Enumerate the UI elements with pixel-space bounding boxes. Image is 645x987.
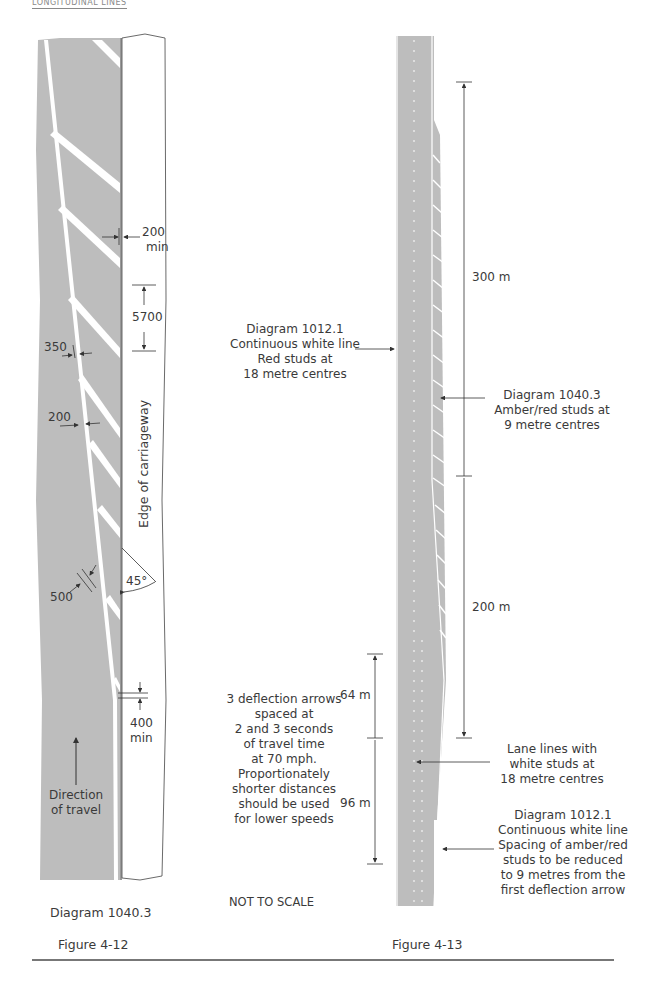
annot-line: Diagram 1012.1: [230, 322, 360, 337]
dim-200: 200: [48, 410, 71, 425]
dim-45-degree: 45°: [126, 574, 147, 589]
annot-line: should be used: [224, 797, 344, 812]
dim-5700: 5700: [132, 310, 163, 325]
annot-line: shorter distances: [224, 782, 344, 797]
dim-unit: min: [130, 731, 153, 746]
dim-200m: 200 m: [472, 600, 510, 615]
dim-unit: min: [142, 240, 169, 255]
dim-value: 200: [142, 225, 169, 240]
annot-line: spaced at: [224, 707, 344, 722]
annot-line: 2 and 3 seconds: [224, 722, 344, 737]
label-line: Direction: [48, 788, 104, 803]
footer-rule: [32, 959, 614, 961]
annot-line: Diagram 1012.1: [498, 808, 628, 823]
dim-400-min: 400 min: [130, 716, 153, 746]
annot-line: Spacing of amber/red: [498, 838, 628, 853]
annot-line: 18 metre centres: [230, 367, 360, 382]
figure-4-13-caption: Figure 4-13: [392, 937, 463, 952]
annot-line: Continuous white line: [498, 823, 628, 838]
annot-line: Lane lines with: [492, 742, 612, 757]
edge-of-carriageway-label: Edge of carriageway: [136, 400, 151, 528]
annotation-deflection-arrows: 3 deflection arrows spaced at 2 and 3 se…: [224, 692, 344, 827]
direction-of-travel-label: Direction of travel: [48, 788, 104, 818]
dim-500: 500: [50, 590, 73, 605]
dim-64m: 64 m: [340, 688, 371, 703]
annot-line: Red studs at: [230, 352, 360, 367]
annotation-right-edge-line: Diagram 1012.1 Continuous white line Spa…: [498, 808, 628, 898]
annot-line: of travel time: [224, 737, 344, 752]
dim-350: 350: [44, 340, 67, 355]
annot-line: studs to be reduced: [498, 853, 628, 868]
annot-line: white studs at: [492, 757, 612, 772]
annotation-hatched-area: Diagram 1040.3 Amber/red studs at 9 metr…: [482, 388, 622, 433]
annot-line: Amber/red studs at: [482, 403, 622, 418]
annot-line: at 70 mph.: [224, 752, 344, 767]
diagram-1040-3-label: Diagram 1040.3: [50, 905, 151, 920]
annot-line: 9 metre centres: [482, 418, 622, 433]
label-line: of travel: [48, 803, 104, 818]
annot-line: 3 deflection arrows: [224, 692, 344, 707]
annot-line: to 9 metres from the: [498, 868, 628, 883]
annotation-left-edge-line: Diagram 1012.1 Continuous white line Red…: [230, 322, 360, 382]
figure-4-12-caption: Figure 4-12: [58, 937, 129, 952]
dim-value: 400: [130, 716, 153, 731]
annot-line: first deflection arrow: [498, 883, 628, 898]
annotation-lane-lines: Lane lines with white studs at 18 metre …: [492, 742, 612, 787]
dim-300m: 300 m: [472, 270, 510, 285]
dim-96m: 96 m: [340, 796, 371, 811]
annot-line: Diagram 1040.3: [482, 388, 622, 403]
annot-line: for lower speeds: [224, 812, 344, 827]
not-to-scale-note: NOT TO SCALE: [229, 895, 314, 909]
annot-line: 18 metre centres: [492, 772, 612, 787]
dim-200-min-top: 200 min: [142, 225, 169, 255]
annot-line: Continuous white line: [230, 337, 360, 352]
annot-line: Proportionately: [224, 767, 344, 782]
